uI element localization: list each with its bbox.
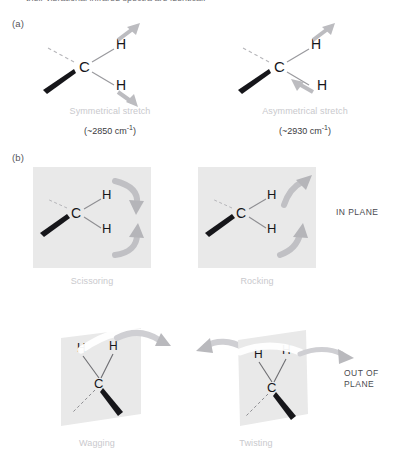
carbon-atom-label: C — [94, 376, 103, 391]
bond-to-lower-hydrogen — [92, 72, 114, 85]
freq-value: (~2850 cm — [84, 126, 127, 136]
wedge-bond-front — [238, 69, 271, 94]
in-plane-label: IN PLANE — [336, 207, 378, 218]
bond-to-upper-hydrogen — [84, 199, 101, 209]
carbon-atom-label: C — [267, 380, 276, 395]
symmetrical-stretch-caption: Symmetrical stretch — [0, 106, 220, 116]
wedge-bond-front — [43, 69, 76, 94]
scissoring-lower-curved-arrow-icon — [115, 223, 144, 255]
asymmetrical-stretch-caption: Asymmetrical stretch — [195, 106, 405, 116]
out-of-plane-label: OUT OF PLANE — [344, 368, 379, 390]
rocking-caption: Rocking — [198, 276, 316, 286]
freq-close: ) — [133, 126, 136, 136]
dashed-bond-back — [212, 199, 232, 208]
carbon-atom-label: C — [236, 205, 246, 221]
dashed-bond-back — [243, 48, 269, 62]
scissoring-upper-curved-arrow-icon — [115, 181, 144, 215]
twisting-right-arrow-icon — [300, 349, 354, 364]
symmetrical-stretch-molecule: C H H — [30, 22, 180, 107]
wedge-bond-front — [40, 214, 70, 237]
lower-hydrogen-atom-label: H — [102, 221, 111, 236]
asymmetrical-stretch-frequency: (~2930 cm-1) — [195, 124, 405, 136]
symmetrical-stretch-frequency: (~2850 cm-1) — [0, 124, 220, 136]
lower-hydrogen-atom-label: H — [116, 77, 126, 93]
bond-to-upper-hydrogen — [287, 49, 309, 62]
freq-value: (~2930 cm — [279, 126, 322, 136]
asymmetrical-stretch-molecule: C H H — [225, 22, 375, 107]
dashed-bond-back — [48, 48, 74, 62]
wedge-bond-front — [205, 214, 235, 237]
lower-outward-arrow-icon — [118, 92, 138, 107]
scissoring-caption: Scissoring — [33, 276, 151, 286]
part-a-label: (a) — [12, 18, 24, 29]
bond-to-upper-hydrogen — [92, 49, 114, 62]
upper-hydrogen-atom-label: H — [267, 187, 276, 202]
upper-outward-arrow-icon — [118, 23, 140, 40]
right-hydrogen-atom-label: H — [109, 339, 118, 353]
cropped-heading-text: their vibrational infrared spectra are i… — [26, 0, 266, 3]
upper-outward-arrow-icon — [313, 23, 335, 40]
carbon-atom-label: C — [71, 205, 81, 221]
carbon-atom-label: C — [274, 58, 285, 75]
freq-close: ) — [328, 126, 331, 136]
wagging-caption: Wagging — [42, 438, 152, 448]
dashed-bond-back — [47, 199, 67, 208]
bond-to-lower-hydrogen — [249, 217, 266, 228]
rocking-upper-curved-arrow-icon — [284, 175, 312, 205]
rocking-lower-curved-arrow-icon — [280, 223, 308, 255]
twisting-caption: Twisting — [196, 438, 316, 448]
lower-hydrogen-atom-label: H — [317, 77, 327, 93]
upper-hydrogen-atom-label: H — [102, 187, 111, 202]
carbon-atom-label: C — [79, 58, 90, 75]
rocking-molecule: C H H — [198, 167, 316, 268]
part-b-label: (b) — [12, 152, 24, 163]
scissoring-molecule: C H H — [33, 167, 151, 268]
lower-hydrogen-atom-label: H — [267, 221, 276, 236]
vibrational-modes-figure: their vibrational infrared spectra are i… — [0, 0, 405, 459]
bond-to-upper-hydrogen — [249, 199, 266, 209]
bond-to-lower-hydrogen — [84, 217, 101, 228]
